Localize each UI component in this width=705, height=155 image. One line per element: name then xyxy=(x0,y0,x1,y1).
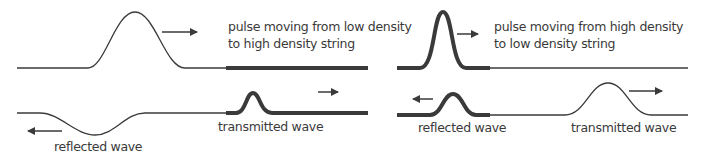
right-title-line2: to low density string xyxy=(494,35,615,52)
thin-string-with-pulse xyxy=(17,12,226,68)
thin-string-with-transmitted-pulse xyxy=(490,83,688,115)
right-title-line1: pulse moving from high density xyxy=(494,18,683,35)
right-result-string xyxy=(397,83,688,115)
left-transmitted-label: transmitted wave xyxy=(218,118,323,135)
right-reflected-label: reflected wave xyxy=(418,119,506,136)
thick-string-with-reflected-pulse xyxy=(397,94,490,115)
left-title-line1: pulse moving from low density xyxy=(228,18,412,35)
wave-reflection-diagram: pulse moving from low density to high de… xyxy=(0,0,705,155)
left-reflected-label: reflected wave xyxy=(54,138,142,155)
left-title-line2: to high density string xyxy=(228,35,355,52)
thick-string-with-transmitted-pulse xyxy=(226,93,368,113)
right-transmitted-label: transmitted wave xyxy=(571,119,676,136)
